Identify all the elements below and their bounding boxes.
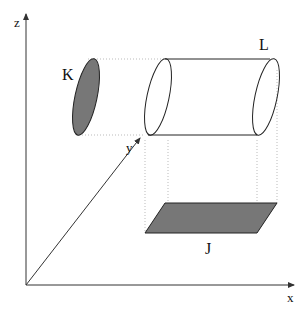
label-k: K	[62, 66, 74, 83]
axes	[26, 14, 294, 285]
label-l: L	[259, 36, 269, 53]
y-axis	[26, 138, 140, 285]
y-axis-label: y	[126, 140, 133, 155]
diagram-canvas: z y x K L J	[0, 0, 308, 317]
z-axis-label: z	[14, 15, 20, 30]
shape-l-cylinder	[139, 57, 285, 138]
x-axis-label: x	[287, 290, 294, 305]
label-j: J	[205, 240, 211, 257]
shape-j	[145, 203, 277, 233]
